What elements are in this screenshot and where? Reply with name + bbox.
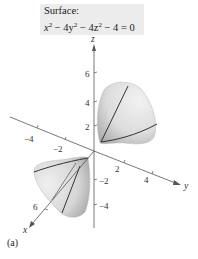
x-axis-label: x [22,225,28,235]
z-axis-label: z [90,34,95,44]
x-tick-6: 6 [33,202,38,212]
3d-plot: z 6 4 2 −2 −4 y −4 −2 2 4 x 6 [0,0,198,259]
y-axis-negative [10,117,94,151]
y-tick-neg4: −4 [24,134,34,144]
z-tick-2: 2 [85,122,90,132]
y-tick-neg2: −2 [53,144,63,154]
y-arrow-icon [173,180,181,185]
z-tick-6: 6 [85,69,90,79]
y-axis-label: y [183,181,189,191]
z-tick-neg4: −4 [99,201,109,211]
y-tick-4: 4 [144,175,149,185]
z-tick-4: 4 [85,98,90,108]
figure-tag: (a) [7,237,18,248]
y-tick-2: 2 [115,164,120,174]
z-tick-neg2: −2 [99,176,109,186]
z-arrow-icon [92,44,96,51]
